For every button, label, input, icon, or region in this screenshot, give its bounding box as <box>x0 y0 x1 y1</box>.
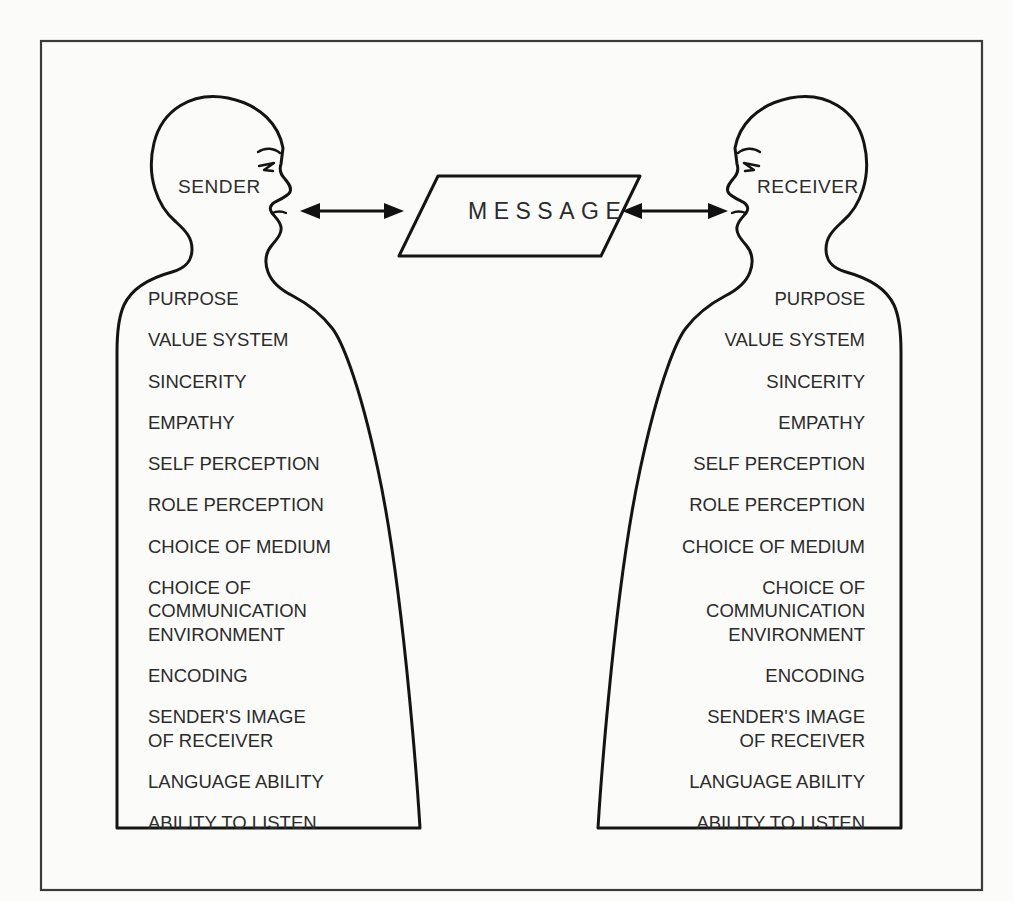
attribute-item: SINCERITY <box>148 370 408 393</box>
attribute-line: CHOICE OF <box>605 576 865 599</box>
attribute-item: PURPOSE <box>148 287 408 310</box>
attribute-item: SENDER'S IMAGEOF RECEIVER <box>605 705 865 752</box>
message-to-receiver-arrow <box>622 203 728 219</box>
attribute-line: SELF PERCEPTION <box>605 452 865 475</box>
attribute-item: SELF PERCEPTION <box>605 452 865 475</box>
attribute-item: SENDER'S IMAGEOF RECEIVER <box>148 705 408 752</box>
receiver-role-label: RECEIVER <box>757 176 859 198</box>
message-label: MESSAGE <box>468 198 627 225</box>
attribute-line: SENDER'S IMAGE <box>605 705 865 728</box>
attribute-item: LANGUAGE ABILITY <box>605 770 865 793</box>
attribute-line: CHOICE OF <box>148 576 408 599</box>
attribute-line: ENCODING <box>148 664 408 687</box>
attribute-item: VALUE SYSTEM <box>605 328 865 351</box>
attribute-line: SINCERITY <box>605 370 865 393</box>
receiver-mouth-icon <box>732 212 746 214</box>
attribute-item: ABILITY TO LISTEN <box>148 811 408 834</box>
receiver-attribute-list: PURPOSEVALUE SYSTEMSINCERITYEMPATHYSELF … <box>605 287 865 852</box>
attribute-line: OF RECEIVER <box>148 729 408 752</box>
attribute-line: COMMUNICATION <box>605 599 865 622</box>
attribute-item: PURPOSE <box>605 287 865 310</box>
arrow-head-left <box>300 203 320 219</box>
attribute-item: CHOICE OFCOMMUNICATIONENVIRONMENT <box>148 576 408 646</box>
attribute-line: VALUE SYSTEM <box>148 328 408 351</box>
attribute-line: LANGUAGE ABILITY <box>148 770 408 793</box>
sender-eye-icon <box>259 163 274 171</box>
sender-attribute-list: PURPOSEVALUE SYSTEMSINCERITYEMPATHYSELF … <box>148 287 408 852</box>
attribute-line: SINCERITY <box>148 370 408 393</box>
attribute-item: ENCODING <box>605 664 865 687</box>
sender-role-label: SENDER <box>178 176 261 198</box>
attribute-item: VALUE SYSTEM <box>148 328 408 351</box>
attribute-item: ENCODING <box>148 664 408 687</box>
attribute-line: COMMUNICATION <box>148 599 408 622</box>
attribute-item: EMPATHY <box>148 411 408 434</box>
attribute-line: ROLE PERCEPTION <box>148 493 408 516</box>
attribute-line: CHOICE OF MEDIUM <box>148 535 408 558</box>
attribute-item: ROLE PERCEPTION <box>148 493 408 516</box>
attribute-line: VALUE SYSTEM <box>605 328 865 351</box>
attribute-line: ENCODING <box>605 664 865 687</box>
attribute-line: LANGUAGE ABILITY <box>605 770 865 793</box>
attribute-line: ENVIRONMENT <box>605 623 865 646</box>
sender-to-message-arrow <box>300 203 404 219</box>
attribute-item: ABILITY TO LISTEN <box>605 811 865 834</box>
sender-brow-icon <box>258 149 280 153</box>
attribute-line: EMPATHY <box>605 411 865 434</box>
attribute-line: ABILITY TO LISTEN <box>605 811 865 834</box>
attribute-item: CHOICE OF MEDIUM <box>605 535 865 558</box>
receiver-brow-icon <box>738 149 760 153</box>
attribute-line: PURPOSE <box>605 287 865 310</box>
attribute-item: EMPATHY <box>605 411 865 434</box>
attribute-line: PURPOSE <box>148 287 408 310</box>
attribute-item: CHOICE OF MEDIUM <box>148 535 408 558</box>
attribute-item: SINCERITY <box>605 370 865 393</box>
attribute-item: CHOICE OFCOMMUNICATIONENVIRONMENT <box>605 576 865 646</box>
arrow-head-right <box>708 203 728 219</box>
attribute-item: SELF PERCEPTION <box>148 452 408 475</box>
attribute-line: OF RECEIVER <box>605 729 865 752</box>
attribute-line: CHOICE OF MEDIUM <box>605 535 865 558</box>
receiver-eye-icon <box>744 163 759 171</box>
attribute-line: EMPATHY <box>148 411 408 434</box>
diagram-canvas: SENDER RECEIVER MESSAGE PURPOSEVALUE SYS… <box>0 0 1013 901</box>
attribute-line: ENVIRONMENT <box>148 623 408 646</box>
attribute-item: ROLE PERCEPTION <box>605 493 865 516</box>
attribute-item: LANGUAGE ABILITY <box>148 770 408 793</box>
attribute-line: ROLE PERCEPTION <box>605 493 865 516</box>
arrow-head-right <box>384 203 404 219</box>
attribute-line: ABILITY TO LISTEN <box>148 811 408 834</box>
sender-mouth-icon <box>272 212 286 214</box>
attribute-line: SELF PERCEPTION <box>148 452 408 475</box>
attribute-line: SENDER'S IMAGE <box>148 705 408 728</box>
